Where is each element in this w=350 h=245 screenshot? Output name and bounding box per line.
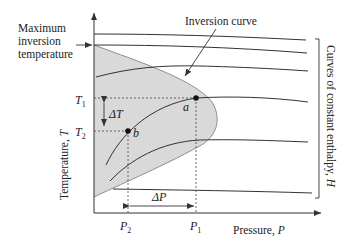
point-b-label: b <box>133 126 139 140</box>
point-a-label: a <box>183 100 189 114</box>
enthalpy-bracket <box>315 39 319 198</box>
p1-label: P1 <box>189 219 201 235</box>
inversion-curve-label: Inversion curve <box>185 15 257 27</box>
enthalpy-curve-1 <box>94 34 306 40</box>
t2-label: T2 <box>75 125 86 141</box>
point-a-marker <box>193 95 199 101</box>
enthalpy-bracket-label: Curves of constant enthalpy, H <box>324 45 337 188</box>
x-axis-label: Pressure, P <box>233 224 285 237</box>
enthalpy-curve-6 <box>113 189 312 193</box>
point-b-marker <box>125 128 131 134</box>
y-axis-label: Temperature, T <box>58 128 71 200</box>
max-inversion-label: Maximum inversion temperature <box>18 22 73 61</box>
joule-thomson-diagram: Maximum inversion temperature Inversion … <box>0 0 350 245</box>
t1-label: T1 <box>75 93 86 109</box>
delta-t-label: ΔT <box>108 107 124 121</box>
delta-p-label: ΔP <box>151 190 167 204</box>
p2-label: P2 <box>119 219 131 235</box>
